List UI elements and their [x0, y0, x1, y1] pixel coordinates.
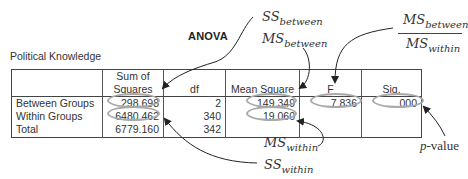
row-label: Between Groups [12, 97, 103, 111]
f-ratio-numerator: MSbetween [403, 12, 468, 30]
cell-sig [362, 123, 422, 138]
ss-between-label: SSbetween [262, 9, 323, 27]
header-empty [12, 70, 103, 97]
cell-df: 2 [164, 97, 226, 111]
highlight-sig-value [372, 93, 424, 108]
ss-within-label: SSwithin [264, 157, 313, 175]
ms-between-label: MSbetween [262, 31, 327, 49]
anova-table: Sum ofSquares df Mean Square F Sig. Betw… [11, 69, 422, 138]
row-label: Within Groups [12, 110, 103, 123]
cell-sig [362, 110, 422, 123]
cell-f [300, 110, 362, 123]
cell-df: 340 [164, 110, 226, 123]
highlight-ms-within [246, 106, 297, 121]
table-row-within-groups: Within Groups 6480.462 340 19.060 [12, 110, 422, 123]
highlight-f-value [310, 93, 362, 108]
header-ss-line1: Sum of [116, 70, 149, 82]
arrow-p-value [424, 107, 445, 136]
fraction-bar [398, 33, 462, 34]
row-label: Total [12, 123, 103, 138]
ms-within-label: MSwithin [264, 135, 318, 153]
cell-ss: 6779.160 [103, 123, 164, 138]
table-header-row: Sum ofSquares df Mean Square F Sig. [12, 70, 422, 97]
f-ratio-denominator: MSwithin [406, 36, 460, 54]
anova-title: ANOVA [188, 30, 228, 42]
header-df: df [164, 70, 226, 97]
table-row-total: Total 6779.160 342 [12, 123, 422, 138]
highlight-ss-within [107, 106, 160, 121]
dependent-variable-label: Political Knowledge [10, 50, 101, 62]
p-value-label: p-value [420, 138, 459, 154]
cell-df: 342 [164, 123, 226, 138]
